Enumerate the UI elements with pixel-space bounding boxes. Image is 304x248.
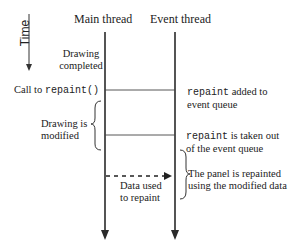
drawing-modified-brace — [91, 101, 101, 150]
data-used-line1: Data used — [120, 180, 162, 192]
event-thread-arrow-head — [171, 230, 179, 240]
data-used-label: Data used to repaint — [120, 180, 162, 204]
main-thread-header: Main thread — [74, 13, 132, 25]
drawing-modified-line1: Drawing is — [41, 118, 87, 130]
call-repaint-code: repaint() — [45, 85, 99, 96]
repaint-added-code: repaint — [187, 87, 229, 98]
repaint-added-label: repaint added to event queue — [187, 86, 268, 111]
time-arrow-head — [26, 64, 32, 71]
drawing-modified-label: Drawing is modified — [41, 118, 87, 142]
drawing-modified-line2: modified — [41, 130, 87, 142]
repaint-added-text-2: event queue — [187, 99, 268, 111]
repaint-taken-text: is taken out — [228, 130, 279, 141]
drawing-completed-label: Drawing completed — [56, 48, 106, 72]
call-repaint-label: Call to repaint() — [14, 84, 99, 97]
repaint-taken-label: repaint is taken out of the event queue — [186, 130, 279, 155]
panel-repainted-line1: The panel is repainted — [188, 168, 287, 180]
panel-repainted-line2: using the modified data — [188, 180, 287, 192]
repaint-taken-code: repaint — [186, 131, 228, 142]
data-used-line2: to repaint — [120, 192, 162, 204]
repaint-added-text: added to — [229, 86, 268, 97]
event-thread-header: Event thread — [150, 13, 211, 25]
drawing-completed-line1: Drawing — [56, 48, 106, 60]
panel-repainted-label: The panel is repainted using the modifie… — [188, 168, 287, 192]
drawing-completed-line2: completed — [56, 60, 106, 72]
call-to-text: Call to — [14, 84, 45, 95]
time-axis-label: Time — [18, 13, 32, 53]
repaint-taken-text-2: of the event queue — [186, 143, 279, 155]
data-used-arrow-head — [164, 172, 172, 180]
main-thread-arrow-head — [101, 230, 109, 240]
